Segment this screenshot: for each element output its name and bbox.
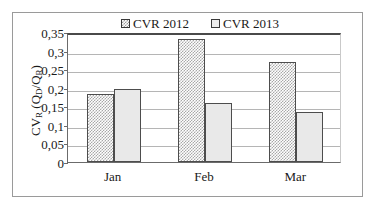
bar-groups — [68, 35, 340, 162]
y-axis-tick-label: 0,1 — [28, 119, 64, 132]
bar-mar-cvr-2012 — [269, 62, 296, 162]
plot-area — [67, 33, 341, 163]
x-axis-tick-label-feb: Feb — [194, 170, 214, 183]
bar-mar-cvr-2013 — [296, 112, 323, 162]
chart-figure: CVR 2012 CVR 2013 CVR (QD/QR) 00,050,10,… — [0, 0, 377, 207]
y-axis-tick-label: 0,3 — [28, 45, 64, 58]
y-axis-tick-label: 0,35 — [28, 27, 64, 40]
bar-group-jan — [68, 35, 159, 162]
bar-feb-cvr-2013 — [205, 103, 232, 162]
legend-label-cvr-2012: CVR 2012 — [133, 17, 189, 30]
legend-label-cvr-2013: CVR 2013 — [223, 17, 279, 30]
bar-group-mar — [251, 35, 342, 162]
x-axis-tick-label-mar: Mar — [284, 170, 306, 183]
y-axis-tick-mark — [64, 163, 68, 164]
bar-feb-cvr-2012 — [178, 39, 205, 162]
y-axis-tick-label: 0,15 — [28, 101, 64, 114]
legend-item-cvr-2012: CVR 2012 — [121, 17, 189, 30]
legend-item-cvr-2013: CVR 2013 — [211, 17, 279, 30]
y-axis-tick-label: 0,25 — [28, 64, 64, 77]
bar-jan-cvr-2012 — [87, 94, 114, 162]
x-axis-tick-labels: JanFebMar — [67, 170, 341, 188]
y-axis-tick-labels: 00,050,10,150,20,250,30,35 — [26, 33, 64, 163]
bar-group-feb — [159, 35, 250, 162]
legend-swatch-plain-icon — [211, 19, 220, 28]
legend-swatch-checkered-icon — [121, 19, 130, 28]
chart-legend: CVR 2012 CVR 2013 — [100, 14, 300, 32]
y-axis-tick-label: 0 — [28, 157, 64, 170]
bar-jan-cvr-2013 — [114, 89, 141, 162]
y-axis-tick-label: 0,05 — [28, 138, 64, 151]
x-axis-tick-label-jan: Jan — [104, 170, 121, 183]
y-axis-tick-label: 0,2 — [28, 82, 64, 95]
